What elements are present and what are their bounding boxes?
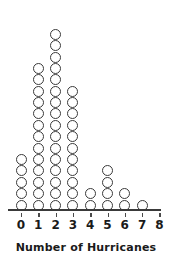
data-dot	[50, 29, 61, 40]
x-axis-tick-1	[38, 213, 39, 217]
data-dot	[67, 143, 78, 154]
x-axis-tick-3	[73, 213, 74, 217]
x-axis-tick-label-6: 6	[116, 218, 134, 232]
data-dot	[33, 74, 44, 85]
data-dot	[33, 108, 44, 119]
data-dot	[67, 97, 78, 108]
dot-column-3	[65, 86, 81, 211]
data-dot	[85, 188, 96, 199]
dot-plot-chart: Number of Hurricanes 012345678	[0, 0, 172, 270]
x-axis-tick-label-2: 2	[47, 218, 65, 232]
x-axis-tick-0	[21, 213, 22, 217]
data-dot	[67, 120, 78, 131]
dot-column-0	[13, 154, 29, 211]
dot-column-2	[48, 29, 64, 211]
data-dot	[33, 120, 44, 131]
data-dot	[16, 177, 27, 188]
x-axis-tick-label-5: 5	[99, 218, 117, 232]
dot-column-4	[82, 188, 98, 211]
data-dot	[33, 154, 44, 165]
data-dot	[16, 154, 27, 165]
data-dot	[33, 86, 44, 97]
data-dot	[50, 143, 61, 154]
x-axis-tick-2	[56, 213, 57, 217]
x-axis-tick-label-0: 0	[12, 218, 30, 232]
data-dot	[102, 165, 113, 176]
data-dot	[50, 165, 61, 176]
data-dot	[67, 108, 78, 119]
data-dot	[50, 177, 61, 188]
data-dot	[67, 86, 78, 97]
data-dot	[50, 188, 61, 199]
data-dot	[67, 154, 78, 165]
data-dot	[16, 188, 27, 199]
x-axis-title: Number of Hurricanes	[0, 241, 172, 254]
x-axis-tick-label-3: 3	[64, 218, 82, 232]
data-dot	[50, 131, 61, 142]
x-axis-line	[8, 209, 161, 211]
data-dot	[33, 165, 44, 176]
data-dot	[102, 188, 113, 199]
data-dot	[50, 63, 61, 74]
data-dot	[50, 74, 61, 85]
data-dot	[50, 52, 61, 63]
data-dot	[50, 97, 61, 108]
data-dot	[50, 154, 61, 165]
data-dot	[67, 131, 78, 142]
x-axis-tick-label-7: 7	[133, 218, 151, 232]
dot-column-1	[30, 63, 46, 211]
data-dot	[102, 177, 113, 188]
data-dot	[50, 120, 61, 131]
x-axis-tick-label-8: 8	[150, 218, 168, 232]
dot-column-6	[117, 188, 133, 211]
data-dot	[119, 188, 130, 199]
data-dot	[67, 188, 78, 199]
data-dot	[33, 177, 44, 188]
data-dot	[67, 165, 78, 176]
x-axis-tick-5	[108, 213, 109, 217]
x-axis-tick-7	[142, 213, 143, 217]
data-dot	[50, 86, 61, 97]
x-axis-tick-6	[125, 213, 126, 217]
x-axis-tick-label-4: 4	[81, 218, 99, 232]
dot-column-5	[100, 165, 116, 211]
data-dot	[33, 188, 44, 199]
x-axis-tick-8	[159, 213, 160, 217]
x-axis-tick-label-1: 1	[29, 218, 47, 232]
data-dot	[67, 177, 78, 188]
data-dot	[16, 165, 27, 176]
data-dot	[50, 108, 61, 119]
data-dot	[33, 63, 44, 74]
plot-area	[0, 0, 172, 211]
data-dot	[33, 131, 44, 142]
data-dot	[50, 40, 61, 51]
data-dot	[33, 143, 44, 154]
x-axis-tick-4	[90, 213, 91, 217]
data-dot	[33, 97, 44, 108]
